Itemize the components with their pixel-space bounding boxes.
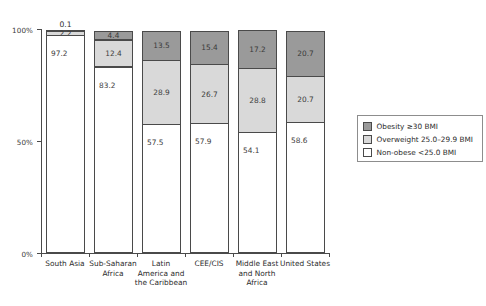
segment-nonobese-south-asia: 97.2 <box>46 35 85 253</box>
segment-value-overweight-united-states: 20.7 <box>297 96 313 103</box>
bar-south-asia: 0.1 2.2 97.2 <box>46 31 85 253</box>
category-label-line: United States <box>270 259 340 269</box>
segment-nonobese-latin-america-and-the-caribbean: 57.5 <box>142 124 181 253</box>
y-axis-label-0: 0% <box>7 250 33 259</box>
segment-overweight-cee-cis: 26.7 <box>190 64 229 124</box>
category-label-line: and North <box>222 269 292 279</box>
x-tick-2 <box>137 253 138 257</box>
category-label-line: the Caribbean <box>126 278 196 288</box>
bar-latin-america-and-the-caribbean: 13.5 28.9 57.5 <box>142 31 181 253</box>
category-label-line: Africa <box>222 278 292 288</box>
segment-value-nonobese-middle-east-and-north-africa: 54.1 <box>243 147 259 154</box>
segment-obesity-united-states: 20.7 <box>286 31 325 77</box>
category-label-line: America and <box>126 269 196 279</box>
segment-value-obesity-united-states: 20.7 <box>297 50 313 57</box>
segment-value-obesity-cee-cis: 15.4 <box>201 44 217 51</box>
segment-value-overweight-cee-cis: 26.7 <box>201 91 217 98</box>
segment-value-nonobese-sub-saharan-africa: 83.2 <box>99 82 115 89</box>
x-tick-0 <box>41 253 42 257</box>
segment-value-nonobese-cee-cis: 57.9 <box>195 138 211 145</box>
legend-label-overweight: Overweight 25.0–29.9 BMI <box>377 135 473 144</box>
segment-obesity-latin-america-and-the-caribbean: 13.5 <box>142 31 181 61</box>
segment-nonobese-cee-cis: 57.9 <box>190 123 229 253</box>
segment-overweight-latin-america-and-the-caribbean: 28.9 <box>142 60 181 125</box>
segment-value-overweight-latin-america-and-the-caribbean: 28.9 <box>153 89 169 96</box>
legend-label-nonobese: Non-obese <25.0 BMI <box>377 148 457 157</box>
x-tick-3 <box>185 253 186 257</box>
segment-value-nonobese-latin-america-and-the-caribbean: 57.5 <box>147 139 163 146</box>
x-tick-4 <box>233 253 234 257</box>
x-tick-6 <box>329 253 330 257</box>
legend-item-obesity: Obesity ≥30 BMI <box>363 120 477 133</box>
legend-swatch-overweight-icon <box>363 135 372 144</box>
segment-value-obesity-middle-east-and-north-africa: 17.2 <box>249 46 265 53</box>
bar-united-states: 20.7 20.7 58.6 <box>286 31 325 253</box>
segment-nonobese-sub-saharan-africa: 83.2 <box>94 67 133 253</box>
segment-value-nonobese-south-asia: 97.2 <box>51 50 67 57</box>
legend: Obesity ≥30 BMI Overweight 25.0–29.9 BMI… <box>357 115 483 162</box>
plot-area: 0.1 2.2 97.2 4.4 12.4 83.2 13.5 <box>41 29 330 253</box>
legend-swatch-obesity-icon <box>363 122 372 131</box>
segment-nonobese-united-states: 58.6 <box>286 122 325 253</box>
legend-item-nonobese: Non-obese <25.0 BMI <box>363 146 477 159</box>
x-tick-1 <box>89 253 90 257</box>
legend-swatch-nonobese-icon <box>363 148 372 157</box>
segment-value-overweight-sub-saharan-africa: 12.4 <box>105 50 121 57</box>
bar-sub-saharan-africa: 4.4 12.4 83.2 <box>94 31 133 253</box>
bar-middle-east-and-north-africa: 17.2 28.8 54.1 <box>238 30 277 253</box>
segment-obesity-cee-cis: 15.4 <box>190 31 229 66</box>
segment-overweight-sub-saharan-africa: 12.4 <box>94 40 133 68</box>
y-axis-label-50: 50% <box>7 138 33 147</box>
legend-item-overweight: Overweight 25.0–29.9 BMI <box>363 133 477 146</box>
segment-overweight-middle-east-and-north-africa: 28.8 <box>238 68 277 133</box>
category-label-united-states: United States <box>270 259 340 269</box>
stacked-bar-chart: 100% 50% 0% 0.1 2.2 97.2 4.4 12. <box>0 0 486 306</box>
segment-value-obesity-sub-saharan-africa: 4.4 <box>108 32 120 39</box>
segment-value-obesity-latin-america-and-the-caribbean: 13.5 <box>153 42 169 49</box>
x-tick-5 <box>281 253 282 257</box>
segment-obesity-middle-east-and-north-africa: 17.2 <box>238 30 277 69</box>
bar-value-obesity-south-asia: 0.1 <box>46 20 85 29</box>
segment-value-nonobese-united-states: 58.6 <box>291 137 307 144</box>
segment-nonobese-middle-east-and-north-africa: 54.1 <box>238 132 277 253</box>
bar-cee-cis: 15.4 26.7 57.9 <box>190 31 229 253</box>
segment-value-overweight-middle-east-and-north-africa: 28.8 <box>249 97 265 104</box>
legend-label-obesity: Obesity ≥30 BMI <box>377 122 438 131</box>
y-axis-label-100: 100% <box>7 26 33 35</box>
segment-overweight-united-states: 20.7 <box>286 76 325 122</box>
